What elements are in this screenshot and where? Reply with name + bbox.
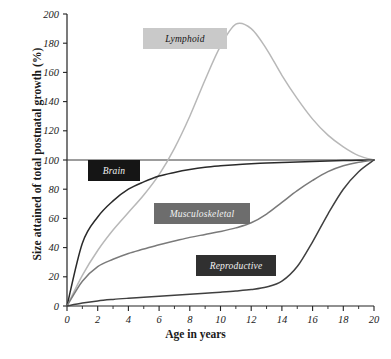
y-tick-label: 80 [49,184,60,195]
x-tick-label: 2 [95,314,101,325]
x-tick-label: 6 [156,314,162,325]
x-tick-label: 4 [126,314,132,325]
y-tick-label: 200 [43,9,60,20]
x-tick-label: 20 [369,314,380,325]
x-tick-label: 0 [64,314,70,325]
x-tick-label: 12 [246,314,257,325]
y-tick-label: 100 [43,155,60,166]
chart-plot-area: 0204060801001201401601802000246810121416… [0,0,391,359]
curve-musculoskeletal [67,160,374,306]
y-tick-label: 180 [43,38,60,49]
y-tick-label: 20 [49,271,60,282]
x-tick-label: 16 [307,314,318,325]
y-tick-label: 40 [49,242,60,253]
series-label-musculoskeletal: Musculoskeletal [154,203,250,224]
y-tick-label: 140 [43,96,60,107]
y-tick-label: 160 [43,67,60,78]
series-label-brain: Brain [88,160,140,181]
y-axis-title: Size attained of total postnatal growth … [31,29,43,279]
growth-curves-chart: 0204060801001201401601802000246810121416… [0,0,391,359]
y-tick-label: 60 [49,213,60,224]
x-tick-label: 8 [187,314,193,325]
y-tick-label: 0 [54,301,60,312]
curve-reproductive [67,160,374,306]
x-tick-label: 18 [338,314,349,325]
series-label-lymphoid: Lymphoid [143,28,227,49]
x-tick-label: 14 [277,314,288,325]
y-tick-label: 120 [43,125,60,136]
x-axis-title: Age in years [0,328,391,340]
x-tick-label: 10 [215,314,226,325]
series-label-reproductive: Reproductive [196,255,276,276]
curve-brain [67,160,374,306]
